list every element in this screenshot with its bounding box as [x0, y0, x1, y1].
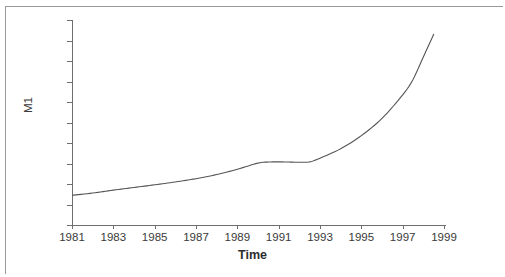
x-tick-label: 1995 [349, 232, 375, 244]
x-tick [196, 225, 197, 229]
y-tick [67, 41, 72, 42]
y-tick [67, 61, 72, 62]
y-axis-title: M1 [22, 97, 34, 113]
plot-area: 0100020003000400050006000700080009000100… [72, 20, 444, 225]
y-tick [67, 82, 72, 83]
y-tick [67, 143, 72, 144]
x-tick-label: 1981 [59, 232, 85, 244]
x-tick [403, 225, 404, 229]
x-tick-label: 1993 [307, 232, 333, 244]
x-tick-label: 1991 [266, 232, 292, 244]
x-tick-label: 1985 [142, 232, 168, 244]
x-axis-line [72, 225, 446, 226]
x-tick-label: 1997 [390, 232, 416, 244]
x-tick [279, 225, 280, 229]
y-tick [67, 205, 72, 206]
x-tick [113, 225, 114, 229]
line-series-m1 [72, 20, 444, 225]
x-tick [72, 225, 73, 229]
x-tick [361, 225, 362, 229]
figure-top-border [5, 6, 503, 7]
y-tick [67, 123, 72, 124]
x-tick [320, 225, 321, 229]
x-tick-label: 1983 [101, 232, 127, 244]
x-tick [237, 225, 238, 229]
y-tick [67, 164, 72, 165]
y-tick [67, 102, 72, 103]
x-tick [155, 225, 156, 229]
x-tick-label: 1999 [431, 232, 457, 244]
figure-left-border [5, 6, 6, 274]
y-tick [67, 20, 72, 21]
x-tick [444, 225, 445, 229]
x-tick-label: 1989 [225, 232, 251, 244]
x-tick-label: 1987 [183, 232, 209, 244]
chart-figure: 0100020003000400050006000700080009000100… [0, 0, 505, 277]
x-axis-title: Time [0, 248, 505, 262]
y-tick [67, 184, 72, 185]
